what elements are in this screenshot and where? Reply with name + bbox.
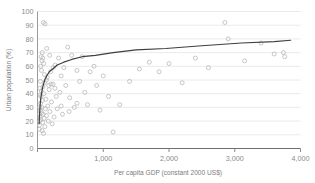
x-axis-title: Per capita GDP (constant 2000 US$): [114, 169, 222, 177]
y-tick-label-60: 60: [26, 62, 34, 71]
y-tick-label-100: 100: [22, 7, 34, 16]
x-tick-label-1000: 1,000: [94, 154, 112, 163]
y-tick-label-50: 50: [26, 76, 34, 85]
plot-background: [0, 0, 315, 183]
y-tick-label-40: 40: [26, 89, 34, 98]
chart-container: 0102030405060708090100 1,0002,0003,0004,…: [0, 0, 315, 183]
x-tick-label-4000: 4,000: [292, 154, 310, 163]
y-tick-label-70: 70: [26, 48, 34, 57]
y-tick-label-20: 20: [26, 117, 34, 126]
x-tick-label-3000: 3,000: [226, 154, 244, 163]
y-tick-label-10: 10: [26, 130, 34, 139]
y-axis-title: Urban population (%): [5, 49, 13, 111]
x-tick-label-2000: 2,000: [160, 154, 178, 163]
y-tick-label-80: 80: [26, 35, 34, 44]
y-tick-label-30: 30: [26, 103, 34, 112]
y-tick-label-0: 0: [30, 144, 34, 153]
y-tick-label-90: 90: [26, 21, 34, 30]
scatter-chart: 0102030405060708090100 1,0002,0003,0004,…: [0, 0, 315, 183]
